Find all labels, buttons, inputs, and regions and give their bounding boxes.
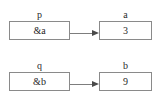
target-box: 3 — [99, 21, 152, 40]
target-variable-a: a 3 — [99, 9, 152, 40]
diagram-row: p &a a 3 — [0, 0, 162, 51]
pointer-name-label: q — [9, 60, 70, 71]
arrow-head-icon — [92, 81, 99, 87]
pointer-arrow — [70, 30, 99, 37]
arrow-head-icon — [92, 30, 99, 36]
target-name-label: a — [99, 9, 152, 20]
target-name-label: b — [99, 60, 152, 71]
target-value: 3 — [100, 22, 151, 39]
diagram-row: q &b b 9 — [0, 51, 162, 102]
pointer-value: &b — [10, 73, 69, 90]
target-value: 9 — [100, 73, 151, 90]
target-variable-b: b 9 — [99, 60, 152, 91]
pointer-arrow — [70, 81, 99, 88]
arrow-shaft — [70, 33, 94, 34]
arrow-shaft — [70, 84, 94, 85]
pointer-box: &a — [9, 21, 70, 40]
target-box: 9 — [99, 72, 152, 91]
pointer-name-label: p — [9, 9, 70, 20]
pointer-variable-q: q &b — [9, 60, 70, 91]
pointer-diagram: p &a a 3 q &b b — [0, 0, 162, 102]
pointer-box: &b — [9, 72, 70, 91]
pointer-value: &a — [10, 22, 69, 39]
pointer-variable-p: p &a — [9, 9, 70, 40]
